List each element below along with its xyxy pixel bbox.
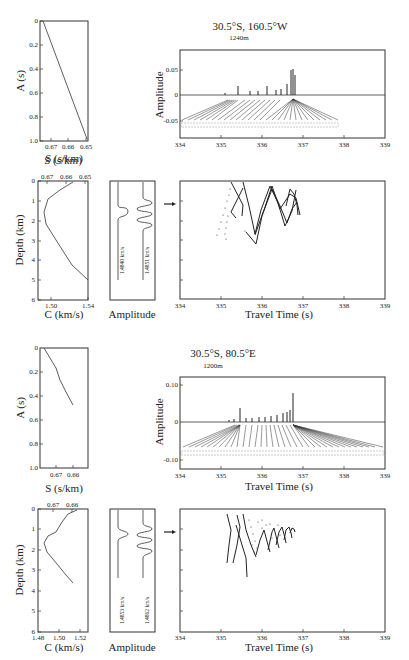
upper-arrivals-plot: 30.5°S, 160.5°W 1240m [153, 20, 391, 149]
tick: 0 [175, 418, 179, 426]
receiver-depth-arrow-icon [172, 202, 176, 206]
tick: 5 [32, 607, 36, 615]
tick: 1.0 [29, 137, 38, 145]
tick: 336 [257, 141, 268, 149]
x-axis-label: Amplitude [108, 308, 155, 320]
upper-sound-speed-plot: S (s/km) 0.67 0.66 0.65 0 1 2 3 4 5 6 1.… [13, 154, 95, 321]
receiver-depth-arrow-icon [172, 530, 176, 534]
lower-mode-amplitude-plot: 1.4853 km/s 1.4862 km/s Amplitude [108, 509, 155, 653]
tick: 6 [32, 296, 36, 304]
tick: 0.8 [29, 113, 38, 121]
tick: 0.10 [166, 381, 179, 389]
tick: 338 [339, 634, 350, 642]
y-axis-label: Depth (km) [13, 214, 26, 265]
tick: 334 [175, 634, 186, 642]
tick: 0 [175, 91, 179, 99]
x-axis-label: C (km/s) [45, 641, 84, 654]
tick: 339 [380, 302, 391, 310]
mode-speed-label: 1.4840 km/s [119, 247, 125, 274]
y-axis-label: Amplitude [153, 71, 165, 118]
tick: 0 [32, 505, 36, 513]
tick: 0.4 [29, 65, 38, 73]
plot-title: 30.5°S, 80.5°E [190, 347, 256, 359]
tick: 339 [380, 634, 391, 642]
tick: 335 [216, 472, 227, 480]
plot-title: 30.5°S, 160.5°W [213, 20, 288, 32]
lower-a-vs-s-plot: 0 0.2 0.4 0.6 0.8 1.0 0.67 0.66 S (s/km)… [14, 344, 88, 495]
receiver-depth: 1240m [229, 34, 249, 42]
tick: 1.54 [82, 302, 95, 310]
tick: 0.8 [29, 440, 38, 448]
upper-a-vs-s-plot: 0 0.2 0.4 0.6 0.8 1.0 0.67 0.66 0.65 S (… [14, 17, 93, 165]
tick: 334 [175, 472, 186, 480]
x-axis-label: S (s/km) [45, 482, 83, 495]
mode-speed-label: 1.4853 km/s [119, 597, 125, 624]
tick: 1.0 [29, 464, 38, 472]
tick: 339 [380, 141, 391, 149]
tick: 1 [32, 197, 36, 205]
y-axis-label: Amplitude [153, 398, 165, 445]
top-axis-label: S (s/km) [44, 154, 82, 167]
x-axis-label: Travel Time (s) [245, 641, 313, 654]
tick: 0.67 [47, 501, 60, 509]
lower-ray-plot: 334 335 336 337 338 339 Travel Time (s) [164, 509, 391, 654]
mode-speed-label: 1.4851 km/s [144, 247, 150, 274]
receiver-depth: 1200m [203, 362, 223, 370]
tick: 335 [216, 141, 227, 149]
tick: 0.6 [29, 89, 38, 97]
tick: 339 [380, 472, 391, 480]
tick: 4 [32, 256, 36, 264]
tick: 0 [35, 344, 39, 352]
tick: 0 [32, 177, 36, 185]
tick: 0.2 [29, 41, 38, 49]
tick: 0.66 [60, 173, 73, 181]
tick: 0.65 [79, 173, 92, 181]
x-axis-label: Travel Time (s) [245, 480, 313, 493]
tick: 0.66 [67, 471, 80, 479]
tick: 0.2 [29, 368, 38, 376]
tick: 337 [298, 141, 309, 149]
tick: 334 [175, 302, 186, 310]
lower-arrivals-plot: 30.5°S, 80.5°E 1200m [153, 347, 391, 493]
tick: 0.67 [41, 173, 54, 181]
tick: 0.65 [80, 143, 93, 151]
figure: 0 0.2 0.4 0.6 0.8 1.0 0.67 0.66 0.65 S (… [0, 0, 409, 660]
mode-number-labels [181, 123, 338, 127]
y-axis-label: Depth (km) [13, 544, 26, 595]
tick: 338 [339, 472, 350, 480]
tick: -0.05 [163, 117, 178, 125]
tick: 4 [32, 587, 36, 595]
tick: 0.4 [29, 392, 38, 400]
y-axis-label: A (s) [14, 397, 27, 419]
tick: 0 [35, 17, 39, 25]
tick: 0.66 [62, 143, 75, 151]
y-axis-label: A (s) [14, 70, 27, 92]
mode-number-labels [181, 451, 384, 455]
tick: 0.67 [45, 143, 58, 151]
tick: 5 [32, 276, 36, 284]
tick: 0.6 [29, 416, 38, 424]
mode-speed-label: 1.4862 km/s [144, 597, 150, 624]
tick: 338 [339, 141, 350, 149]
x-axis-label: C (km/s) [45, 308, 84, 321]
tick: 2 [32, 546, 36, 554]
x-axis-label: Amplitude [108, 641, 155, 653]
upper-mode-amplitude-plot: 1.4840 km/s 1.4851 km/s Amplitude [108, 181, 155, 320]
tick: 335 [216, 634, 227, 642]
tick: 337 [298, 472, 309, 480]
tick: 1 [32, 525, 36, 533]
lower-sound-speed-plot: 0.67 0.66 0 1 2 3 4 5 6 1.48 1.50 1.52 C… [13, 501, 88, 654]
tick: 1.48 [32, 634, 45, 642]
tick: 3 [32, 237, 36, 245]
tick: 334 [175, 141, 186, 149]
tick: 2 [32, 217, 36, 225]
tick: 336 [257, 472, 268, 480]
x-axis-label: Travel Time (s) [245, 308, 313, 321]
tick: 3 [32, 566, 36, 574]
tick: 338 [339, 302, 350, 310]
tick: 0.67 [50, 471, 63, 479]
tick: 0.05 [166, 66, 179, 74]
tick: 335 [216, 302, 227, 310]
upper-ray-plot: 334 335 336 337 338 339 Travel Time (s) [164, 181, 391, 321]
tick: 0.66 [66, 501, 79, 509]
